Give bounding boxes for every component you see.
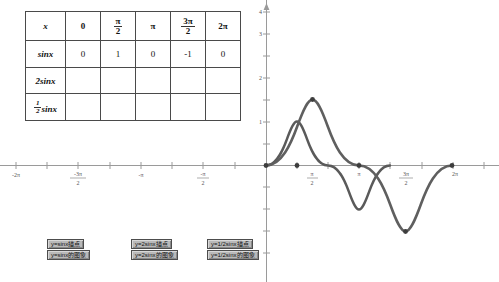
xtick-minus-pi: -π bbox=[138, 172, 143, 178]
point-origin bbox=[264, 163, 269, 168]
table-cell: 0 bbox=[206, 41, 241, 68]
xtick-3pi-2: 3π 2 bbox=[399, 171, 413, 186]
y-axis bbox=[263, 0, 270, 282]
button-2sinx-points[interactable]: y=2sinx描点 bbox=[131, 239, 172, 249]
svg-text:2: 2 bbox=[311, 180, 314, 186]
table-row: sinx 0 1 0 -1 0 bbox=[26, 41, 241, 68]
table-header-row: x 0 π2 π 3π2 2π bbox=[26, 12, 241, 41]
point-pi4 bbox=[295, 163, 300, 168]
ytick-4: 4 bbox=[259, 9, 262, 15]
table-header-x: x bbox=[26, 12, 66, 41]
table-cell bbox=[136, 68, 171, 94]
table-cell bbox=[101, 68, 136, 94]
xtick-pi-2: π 2 bbox=[307, 171, 318, 186]
table-cell: -1 bbox=[171, 41, 206, 68]
ytick-1: 1 bbox=[259, 119, 262, 125]
table-cell bbox=[171, 94, 206, 121]
table-header-2pi: 2π bbox=[206, 12, 241, 41]
applet-canvas: -2π -π 1 2 3 4 -3π 2 -π bbox=[0, 0, 499, 282]
svg-text:3π: 3π bbox=[403, 171, 409, 177]
x-axis bbox=[0, 162, 499, 169]
svg-text:2: 2 bbox=[202, 180, 205, 186]
table-header-0: 0 bbox=[66, 12, 101, 41]
xtick-2pi: 2π bbox=[452, 171, 458, 177]
point-2pi bbox=[450, 163, 455, 168]
table-cell bbox=[206, 68, 241, 94]
svg-text:2: 2 bbox=[77, 180, 80, 186]
table-row: 2sinx bbox=[26, 68, 241, 94]
table-header-pi: π bbox=[136, 12, 171, 41]
svg-text:2: 2 bbox=[405, 180, 408, 186]
point-3pi2-min bbox=[403, 229, 408, 234]
xtick-minus-3pi-2: -3π 2 bbox=[70, 171, 86, 186]
table-row: 12sinx bbox=[26, 94, 241, 121]
point-pi2-max bbox=[310, 97, 315, 102]
button-2sinx-graph[interactable]: y=2sinx的图象 bbox=[131, 250, 178, 260]
ytick-2: 2 bbox=[259, 75, 262, 81]
xtick-minus-2pi: -2π bbox=[12, 172, 20, 178]
table-cell: 0 bbox=[136, 41, 171, 68]
table-cell: 1 bbox=[101, 41, 136, 68]
button-sinx-points[interactable]: y=sinx描点 bbox=[47, 239, 84, 249]
table-cell bbox=[171, 68, 206, 94]
table-cell: 0 bbox=[66, 41, 101, 68]
value-table: x 0 π2 π 3π2 2π sinx 0 1 0 -1 0 2sinx bbox=[25, 11, 241, 121]
button-half-sinx-graph[interactable]: y=1/2sinx的图象 bbox=[207, 250, 259, 260]
table-cell bbox=[66, 68, 101, 94]
point-pi bbox=[357, 163, 362, 168]
table-cell bbox=[206, 94, 241, 121]
button-sinx-graph[interactable]: y=sinx的图象 bbox=[47, 250, 90, 260]
table-header-3pi-2: 3π2 bbox=[171, 12, 206, 41]
table-header-pi-2: π2 bbox=[101, 12, 136, 41]
table-rowlabel-half-sinx: 12sinx bbox=[26, 94, 66, 121]
svg-text:-3π: -3π bbox=[74, 171, 82, 177]
xtick-pi: π bbox=[357, 171, 360, 177]
ytick-3: 3 bbox=[259, 31, 262, 37]
table-rowlabel-2sinx: 2sinx bbox=[26, 68, 66, 94]
table-rowlabel-sinx: sinx bbox=[26, 41, 66, 68]
svg-text:-π: -π bbox=[200, 171, 205, 177]
table-cell bbox=[66, 94, 101, 121]
table-cell bbox=[101, 94, 136, 121]
button-half-sinx-points[interactable]: y=1/2sinx描点 bbox=[207, 239, 253, 249]
xtick-minus-pi-2: -π 2 bbox=[197, 171, 209, 186]
table-cell bbox=[136, 94, 171, 121]
svg-text:π: π bbox=[310, 171, 313, 177]
